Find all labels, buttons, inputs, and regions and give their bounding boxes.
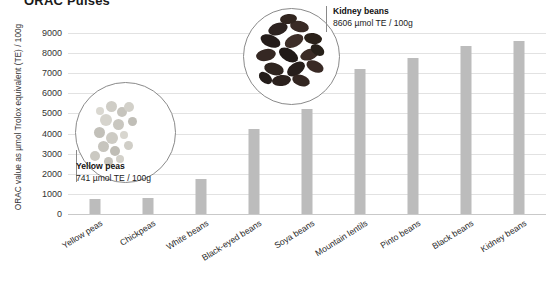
seed-shape bbox=[124, 102, 134, 112]
seed-shape bbox=[271, 74, 291, 88]
bar bbox=[461, 46, 472, 214]
yellow-peas-callout-name: Yellow peas bbox=[76, 160, 151, 172]
seed-shape bbox=[128, 117, 137, 126]
seed-shape bbox=[305, 58, 326, 75]
y-tick-label: 0 bbox=[20, 209, 62, 219]
bar bbox=[514, 41, 525, 214]
x-tick-label: Yellow peas bbox=[60, 218, 104, 251]
y-tick-label: 5000 bbox=[20, 108, 62, 118]
bar bbox=[302, 109, 313, 214]
kidney-beans-leader-line bbox=[326, 6, 327, 32]
page-title: ORAC Pulses bbox=[24, 0, 110, 8]
chart-page: ORAC Pulses ORAC value as µmol Trolox eq… bbox=[0, 0, 557, 282]
y-tick-label: 2000 bbox=[20, 169, 62, 179]
y-tick-label: 7000 bbox=[20, 68, 62, 78]
y-tick-label: 3000 bbox=[20, 149, 62, 159]
bar bbox=[89, 199, 100, 214]
seed-shape bbox=[124, 141, 133, 150]
seed-shape bbox=[255, 47, 277, 63]
kidney-beans-callout-name: Kidney beans bbox=[333, 5, 413, 17]
seed-shape bbox=[100, 114, 112, 126]
x-tick-label: Soya beans bbox=[273, 218, 317, 251]
x-tick-label: Pinto beans bbox=[379, 218, 423, 251]
y-tick-label: 8000 bbox=[20, 48, 62, 58]
y-tick-label: 9000 bbox=[20, 28, 62, 38]
seed-shape bbox=[291, 72, 312, 88]
bar bbox=[355, 69, 366, 214]
yellow-peas-callout-value: 741 µmol TE / 100g bbox=[76, 172, 151, 184]
y-tick-label: 4000 bbox=[20, 129, 62, 139]
seed-shape bbox=[120, 131, 128, 139]
kidney-beans-callout: Kidney beans 8606 µmol TE / 100g bbox=[333, 5, 413, 29]
yellow-peas-callout: Yellow peas 741 µmol TE / 100g bbox=[76, 160, 151, 184]
bar bbox=[408, 58, 419, 214]
bar bbox=[142, 198, 153, 214]
bar bbox=[195, 179, 206, 214]
seed-shape bbox=[113, 119, 124, 130]
x-tick-label: Kidney beans bbox=[479, 218, 528, 254]
x-tick-label: Black beans bbox=[431, 218, 476, 251]
x-tick-label: Chickpeas bbox=[118, 218, 157, 248]
seed-shape bbox=[98, 141, 109, 152]
bar bbox=[248, 129, 259, 214]
seed-shape bbox=[96, 107, 104, 115]
seed-shape bbox=[94, 127, 105, 138]
x-tick-label: White beans bbox=[164, 218, 210, 252]
kidney-bean-seeds bbox=[244, 9, 339, 104]
kidney-beans-callout-value: 8606 µmol TE / 100g bbox=[333, 17, 413, 29]
seed-shape bbox=[106, 101, 117, 112]
gridline bbox=[68, 214, 546, 215]
y-tick-label: 6000 bbox=[20, 88, 62, 98]
x-tick-label: Mountain lentils bbox=[313, 218, 369, 258]
y-tick-label: 1000 bbox=[20, 189, 62, 199]
